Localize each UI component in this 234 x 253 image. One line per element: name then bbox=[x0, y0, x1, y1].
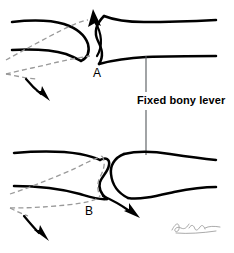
signature-stroke-2 bbox=[189, 225, 205, 230]
panel-a-mobile-bone bbox=[12, 21, 89, 61]
panel-b-lever-inferior-flare bbox=[128, 187, 216, 199]
panel-b-shaft-arrow bbox=[24, 216, 49, 241]
panel-a-up-arrow-head bbox=[88, 9, 101, 27]
panel-b-group bbox=[10, 152, 216, 241]
joint-lever-figure: A B Fixed bony lever bbox=[0, 0, 234, 253]
panel-a-group bbox=[6, 9, 216, 101]
panel-letter-a: A bbox=[93, 66, 101, 80]
panel-b-lever-superior-flare bbox=[124, 152, 216, 160]
panel-a-down-arrow-head bbox=[36, 86, 50, 101]
panel-a-downward-shaft-arrow bbox=[26, 79, 50, 101]
panel-a-lever-inferior-flare bbox=[99, 56, 216, 64]
panel-b-ghost-shaft-tail bbox=[10, 208, 28, 216]
panel-b-shaft-arrow-head bbox=[34, 225, 49, 241]
panel-a-ghost-superior-edge bbox=[6, 20, 88, 60]
panel-a-bone-superior-cortex bbox=[12, 21, 89, 61]
signature-stroke-3 bbox=[205, 226, 220, 228]
signature-stroke-underline bbox=[176, 231, 216, 233]
panel-letter-b: B bbox=[85, 204, 93, 218]
signature-stroke-1 bbox=[172, 224, 189, 232]
figure-canvas bbox=[0, 0, 234, 253]
panel-a-ghost-shaft-tail bbox=[6, 74, 36, 79]
panel-b-fixed-lever bbox=[111, 152, 216, 199]
callout-label-fixed-bony-lever: Fixed bony lever bbox=[137, 94, 225, 106]
panel-b-joint-arrow-head bbox=[124, 203, 140, 218]
panel-b-bone-superior-cortex bbox=[14, 152, 100, 160]
panel-a-lever-superior-flare bbox=[104, 16, 216, 22]
panel-b-joint-arrow-shaft bbox=[103, 196, 128, 210]
panel-b-lever-head-outline bbox=[111, 154, 128, 198]
panel-a-upward-rotation-arrow bbox=[88, 9, 101, 56]
artist-signature bbox=[172, 224, 220, 233]
panel-a-fixed-lever bbox=[96, 16, 216, 64]
